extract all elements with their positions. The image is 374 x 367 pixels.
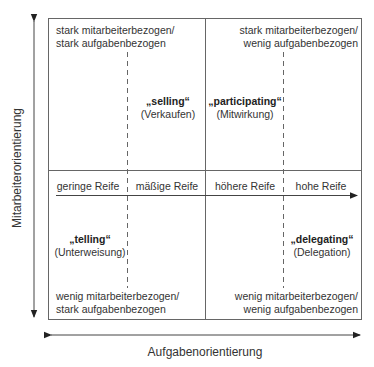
- quadrant-bottom-left-style: „telling“ (Unterweisung): [52, 233, 128, 259]
- style-name: „telling“: [52, 233, 128, 246]
- description-line-2: wenig aufgabenbezogen: [240, 37, 358, 50]
- quadrant-top-right-style: „participating“ (Mitwirkung): [207, 95, 283, 121]
- description-line-1: wenig mitarbeiterbezogen/: [235, 290, 358, 303]
- quadrant-top-right-description: stark mitarbeiterbezogen/ wenig aufgaben…: [240, 24, 358, 50]
- description-line-1: stark mitarbeiterbezogen/: [56, 24, 174, 37]
- quadrant-bottom-left-description: wenig mitarbeiterbezogen/ stark aufgaben…: [56, 290, 179, 316]
- maturity-label-moderate: mäßige Reife: [129, 180, 205, 193]
- quadrant-top-left-description: stark mitarbeiterbezogen/ stark aufgaben…: [56, 24, 174, 50]
- maturity-label-low: geringe Reife: [50, 180, 126, 193]
- style-name: „selling“: [139, 95, 197, 108]
- maturity-label-higher: höhere Reife: [207, 180, 283, 193]
- description-line-1: wenig mitarbeiterbezogen/: [56, 290, 179, 303]
- style-translation: (Unterweisung): [52, 246, 128, 259]
- quadrant-top-left-style: „selling“ (Verkaufen): [139, 95, 197, 121]
- maturity-label-high: hohe Reife: [285, 180, 357, 193]
- y-axis-label: Mitarbeiterorientierung: [10, 108, 24, 228]
- x-axis-label: Aufgabenorientierung: [148, 345, 263, 359]
- description-line-2: wenig aufgabenbezogen: [235, 303, 358, 316]
- description-line-1: stark mitarbeiterbezogen/: [240, 24, 358, 37]
- style-translation: (Verkaufen): [139, 108, 197, 121]
- quadrant-bottom-right-style: „delegating“ (Delegation): [285, 233, 359, 259]
- style-name: „delegating“: [285, 233, 359, 246]
- style-translation: (Delegation): [285, 246, 359, 259]
- style-translation: (Mitwirkung): [207, 108, 283, 121]
- quadrant-bottom-right-description: wenig mitarbeiterbezogen/ wenig aufgaben…: [235, 290, 358, 316]
- style-name: „participating“: [207, 95, 283, 108]
- description-line-2: stark aufgabenbezogen: [56, 37, 174, 50]
- description-line-2: stark aufgabenbezogen: [56, 303, 179, 316]
